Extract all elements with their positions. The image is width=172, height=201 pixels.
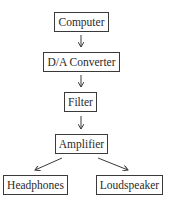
arrow-amplifier-to-headphones (35, 158, 62, 170)
node-label: D/A Converter (47, 56, 115, 68)
node-label: Computer (59, 16, 105, 28)
node-loudspeaker: Loudspeaker (96, 175, 163, 195)
node-da-converter: D/A Converter (43, 52, 120, 72)
node-label: Amplifier (59, 138, 104, 150)
node-label: Loudspeaker (100, 179, 159, 191)
node-headphones: Headphones (3, 175, 68, 195)
node-filter: Filter (64, 92, 97, 112)
node-label: Headphones (7, 179, 64, 191)
arrow-amplifier-to-loudspeaker (98, 158, 128, 170)
node-computer: Computer (54, 12, 109, 32)
node-label: Filter (68, 96, 93, 108)
node-amplifier: Amplifier (55, 134, 108, 154)
